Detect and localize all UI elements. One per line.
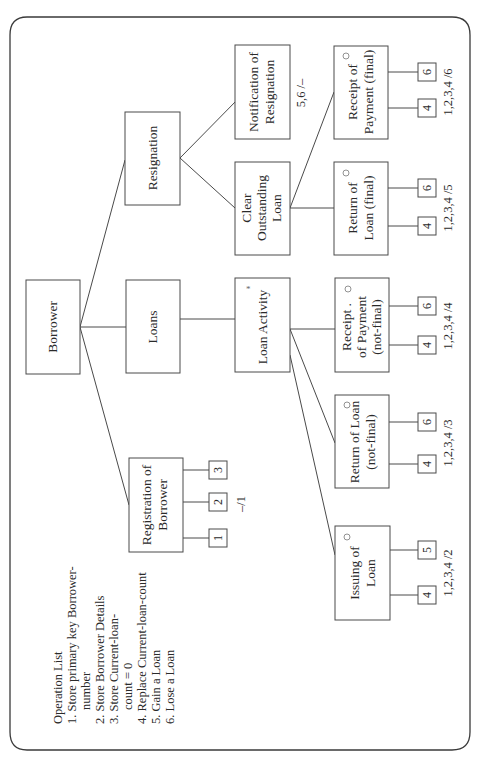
node-receipt-of-payment-not-final: Receipt . of Payment (not-final) 6 4 1,2…: [335, 278, 455, 372]
svg-text:Resignation: Resignation: [262, 60, 277, 125]
registration-ops: 3 2 1 –/1: [209, 461, 248, 547]
svg-text:Receipt .: Receipt .: [339, 303, 354, 351]
svg-text:5: 5: [420, 547, 434, 553]
receipt-final-op-note: 1,2,3,4 /6: [441, 68, 455, 115]
svg-text:Loans: Loans: [145, 311, 160, 344]
node-return-of-loan-final: Return of Loan (final) 6 4 1,2,3,4 /5: [334, 162, 455, 255]
svg-text:2. Store Borrower Details: 2. Store Borrower Details: [93, 595, 107, 724]
registration-op-note: –/1: [234, 496, 248, 513]
svg-text:4: 4: [420, 592, 434, 598]
svg-text:Borrower: Borrower: [45, 301, 60, 353]
svg-text:Payment (final): Payment (final): [361, 50, 376, 134]
svg-text:Loan Activity: Loan Activity: [255, 289, 270, 364]
svg-text:1. Store primary key Borrower-: 1. Store primary key Borrower-: [65, 566, 79, 724]
svg-text:Notification of: Notification of: [246, 52, 261, 132]
svg-text:5. Gain a Loan: 5. Gain a Loan: [149, 649, 163, 724]
node-resignation: Resignation: [125, 112, 180, 205]
svg-text:Receipt of: Receipt of: [345, 64, 360, 120]
svg-text:Issuing of: Issuing of: [347, 546, 362, 600]
svg-text:1: 1: [211, 535, 225, 541]
svg-text:Return of: Return of: [345, 182, 360, 234]
node-registration-of-borrower: Registration of Borrower: [129, 458, 183, 552]
svg-text:count = 0: count = 0: [121, 663, 135, 710]
node-loans: Loans: [126, 280, 180, 373]
node-notification-of-resignation: Notification of Resignation 5,6 /–: [235, 45, 308, 139]
node-receipt-of-payment-final: Receipt of Payment (final) 6 4 1,2,3,4 /…: [334, 46, 455, 139]
issuing-op-note: 1,2,3,4 /2: [441, 549, 455, 596]
svg-text:4: 4: [420, 461, 434, 467]
svg-text:of Payment: of Payment: [354, 296, 369, 358]
svg-text:Loan: Loan: [363, 559, 378, 587]
return-notfinal-op-note: 1,2,3,4 /3: [441, 419, 455, 466]
operation-list-title: Operation List: [51, 651, 65, 724]
node-clear-outstanding-loan: Clear Outstanding Loan: [235, 162, 290, 255]
svg-text:2: 2: [211, 499, 225, 505]
svg-text:4: 4: [420, 223, 434, 229]
svg-text:6: 6: [420, 303, 434, 309]
iteration-marker: *: [246, 284, 251, 294]
svg-text:4. Replace Current-loan-count: 4. Replace Current-loan-count: [135, 572, 149, 724]
svg-text:6: 6: [420, 185, 434, 191]
notification-op-note: 5,6 /–: [294, 78, 308, 107]
svg-text:Clear: Clear: [239, 193, 254, 223]
svg-text:Loan (final): Loan (final): [361, 176, 376, 241]
node-issuing-of-loan: Issuing of Loan 5 4 1,2,3,4 /2: [335, 526, 455, 620]
svg-text:number: number: [79, 671, 93, 710]
svg-text:Resignation: Resignation: [145, 126, 160, 191]
svg-text:4: 4: [420, 105, 434, 111]
receipt-notfinal-op-note: 1,2,3,4 /4: [441, 302, 455, 350]
svg-text:(not-final): (not-final): [369, 299, 384, 354]
svg-text:3. Store Current-loan-: 3. Store Current-loan-: [107, 614, 121, 724]
svg-text:4: 4: [420, 342, 434, 348]
svg-text:Return of Loan: Return of Loan: [347, 401, 362, 484]
operation-list: Operation List 1. Store primary key Borr…: [51, 566, 177, 724]
svg-text:Borrower: Borrower: [155, 479, 170, 531]
svg-text:6: 6: [420, 69, 434, 75]
svg-text:6. Lose a Loan: 6. Lose a Loan: [163, 649, 177, 724]
svg-text:6: 6: [420, 419, 434, 425]
node-borrower: Borrower: [26, 280, 80, 374]
svg-text:Registration of: Registration of: [139, 464, 154, 545]
svg-text:Outstanding: Outstanding: [254, 175, 269, 241]
svg-text:(not-final): (not-final): [363, 414, 378, 469]
svg-text:Loan: Loan: [269, 194, 284, 222]
entity-life-history-diagram: Borrower Loans Resignation Registration …: [0, 0, 480, 759]
return-final-op-note: 1,2,3,4 /5: [441, 184, 455, 231]
node-return-of-loan-not-final: Return of Loan (not-final) 6 4 1,2,3,4 /…: [335, 395, 455, 488]
node-loan-activity: Loan Activity *: [235, 278, 290, 372]
svg-text:3: 3: [211, 467, 225, 473]
